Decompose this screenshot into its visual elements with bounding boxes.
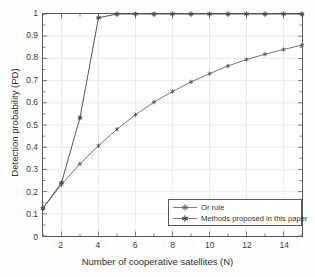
figure-canvas: Detection probability (PD) 00.10.20.30.4… xyxy=(0,0,315,277)
y-tick-label: 0.4 xyxy=(2,143,38,152)
legend-label-or-rule: Or rule xyxy=(201,202,224,213)
x-tick-label: 4 xyxy=(83,241,113,250)
y-tick-label: 0.8 xyxy=(2,53,38,62)
x-tick-label: 12 xyxy=(232,241,262,250)
legend-marker-proposed xyxy=(172,213,198,224)
y-tick-label: 0.1 xyxy=(2,210,38,219)
y-tick-label: 0 xyxy=(2,233,38,242)
x-tick-label: 6 xyxy=(120,241,150,250)
y-tick-label: 0.9 xyxy=(2,31,38,40)
legend-marker-or-rule xyxy=(172,202,198,213)
y-tick-label: 1 xyxy=(2,9,38,18)
legend-item-or-rule[interactable]: Or rule xyxy=(172,202,298,213)
y-tick-label: 0.3 xyxy=(2,165,38,174)
y-tick-label: 0.2 xyxy=(2,188,38,197)
x-tick-label: 14 xyxy=(269,241,299,250)
x-tick-label: 10 xyxy=(195,241,225,250)
x-tick-label: 2 xyxy=(46,241,76,250)
y-tick-label: 0.5 xyxy=(2,121,38,130)
y-tick-label: 0.7 xyxy=(2,76,38,85)
legend-box[interactable]: Or rule Methods proposed in this paper xyxy=(168,199,302,226)
legend-label-proposed: Methods proposed in this paper xyxy=(201,213,307,224)
legend-item-proposed[interactable]: Methods proposed in this paper xyxy=(172,213,298,224)
y-tick-label: 0.6 xyxy=(2,98,38,107)
x-axis-label: Number of cooperative satellites (N) xyxy=(0,256,315,267)
x-tick-label: 8 xyxy=(158,241,188,250)
